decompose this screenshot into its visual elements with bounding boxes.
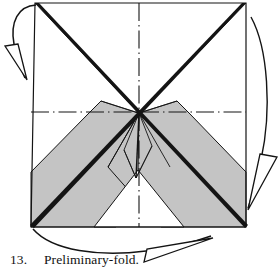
origami-diagram [0, 0, 279, 271]
origami-figure: 13. Preliminary-fold. [0, 0, 279, 271]
caption-step-text: Preliminary-fold. [44, 252, 139, 268]
caption-step-number: 13. [10, 252, 44, 268]
figure-caption: 13. Preliminary-fold. [0, 248, 279, 271]
